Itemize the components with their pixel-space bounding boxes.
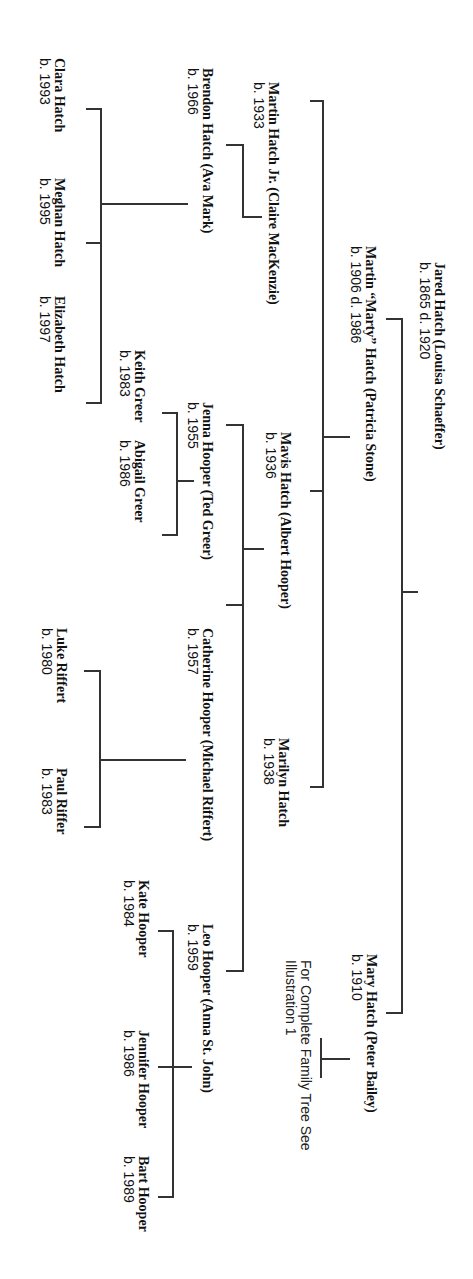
connector-brendon-tick xyxy=(226,144,244,146)
person-dates: b. 1966 xyxy=(186,68,200,234)
connector-martin-sr-tick xyxy=(386,318,402,320)
person-dates: b. 1984 xyxy=(122,880,136,957)
connector-mary-tick xyxy=(386,1012,402,1014)
person-dates: b. 1983 xyxy=(40,768,54,834)
person-name: Clara Hatch xyxy=(52,58,67,132)
connector-gen3-spine xyxy=(322,100,324,788)
connector-jared-stub xyxy=(402,591,418,593)
connector-gen2-spine xyxy=(401,318,403,1014)
person-dates: b. 1983 xyxy=(118,350,132,422)
person-name: Mary Hatch (Peter Bailey) xyxy=(364,954,379,1113)
person-name: Mavis Hatch (Albert Hooper) xyxy=(278,432,293,609)
connector-brendon-elbow xyxy=(242,144,244,218)
person-brendon-hatch: Brendon Hatch (Ava Mark) b. 1966 xyxy=(186,68,215,234)
person-keith-greer: Keith Greer b. 1983 xyxy=(118,350,147,422)
person-martin-marty-hatch: Martin “Marty” Hatch (Patricia Stone) b.… xyxy=(349,246,378,482)
connector-mavis-stub xyxy=(244,548,264,550)
person-jared-hatch: Jared Hatch (Louisa Schaeffer) b. 1865 d… xyxy=(418,262,447,450)
person-name: Jared Hatch (Louisa Schaeffer) xyxy=(432,262,447,450)
person-dates: b. 1910 xyxy=(350,954,364,1113)
person-dates: b. 1986 xyxy=(118,440,132,523)
person-catherine-hooper: Catherine Hooper (Michael Riffert) b. 19… xyxy=(186,628,215,841)
person-name: Jenna Hooper (Ted Greer) xyxy=(200,402,215,560)
connector-keith-tick xyxy=(162,412,178,414)
connector-abigail-tick xyxy=(162,534,178,536)
person-meghan-hatch: Meghan Hatch b. 1995 xyxy=(38,178,67,267)
person-abigail-greer: Abigail Greer b. 1986 xyxy=(118,440,147,523)
connector-clara-tick xyxy=(86,108,102,110)
connector-martin-jr-stub xyxy=(242,216,262,218)
person-name: Paul Riffer xyxy=(54,768,69,834)
note-line-1: For Complete Family Tree See xyxy=(298,960,313,1151)
person-name: Kate Hooper xyxy=(136,880,151,957)
person-dates: b. 1906 d. 1986 xyxy=(349,246,363,482)
person-bart-hooper: Bart Hooper b. 1989 xyxy=(122,1156,151,1232)
person-dates: b. 1986 xyxy=(122,1030,136,1128)
person-name: Brendon Hatch (Ava Mark) xyxy=(200,68,215,234)
connector-gen5-leo-hooper-spine xyxy=(172,930,174,1198)
connector-luke-tick xyxy=(84,670,100,672)
connector-marilyn-tick xyxy=(310,786,324,788)
person-dates: b. 1957 xyxy=(186,628,200,841)
person-name: Marilyn Hatch xyxy=(276,738,291,827)
person-dates: b. 1995 xyxy=(38,178,52,267)
person-dates: b. 1936 xyxy=(264,432,278,609)
connector-jennifer-tick xyxy=(158,1066,174,1068)
person-name: Luke Riffert xyxy=(54,628,69,703)
person-dates: b. 1993 xyxy=(38,58,52,132)
person-martin-hatch-jr: Martin Hatch Jr. (Claire MacKenzie) b. 1… xyxy=(252,82,281,305)
person-name: Keith Greer xyxy=(132,350,147,422)
person-dates: b. 1980 xyxy=(40,628,54,703)
connector-martin-jr-tick xyxy=(310,100,324,102)
connector-catherine-tick xyxy=(226,604,244,606)
person-elizabeth-hatch: Elizabeth Hatch b. 1997 xyxy=(38,296,67,393)
person-mary-hatch: Mary Hatch (Peter Bailey) b. 1910 xyxy=(350,954,379,1113)
connector-mary-note-stub xyxy=(320,1058,350,1060)
person-dates: b. 1989 xyxy=(122,1156,136,1232)
person-dates: b. 1997 xyxy=(38,296,52,393)
complete-tree-note: For Complete Family Tree See Illustratio… xyxy=(283,960,313,1151)
connector-catherine-stub xyxy=(100,759,186,761)
connector-gen4-hooper-spine xyxy=(242,424,244,972)
person-dates: b. 1933 xyxy=(252,82,266,305)
person-name: Abigail Greer xyxy=(132,440,147,523)
connector-elizabeth-tick xyxy=(86,402,102,404)
family-tree-diagram: Jared Hatch (Louisa Schaeffer) b. 1865 d… xyxy=(0,0,473,1279)
connector-brendon-stub xyxy=(102,203,188,205)
person-mavis-hatch: Mavis Hatch (Albert Hooper) b. 1936 xyxy=(264,432,293,609)
connector-jenna-tick xyxy=(226,424,244,426)
connector-leo-tick xyxy=(226,970,244,972)
person-name: Martin Hatch Jr. (Claire MacKenzie) xyxy=(266,82,281,305)
connector-kate-tick xyxy=(158,930,174,932)
person-dates: b. 1938 xyxy=(262,738,276,827)
connector-mavis-tick xyxy=(310,490,324,492)
person-dates: b. 1865 d. 1920 xyxy=(418,262,432,450)
person-name: Leo Hooper (Anna St. John) xyxy=(200,924,215,1093)
connector-martin-sr-stub xyxy=(322,436,350,438)
person-marilyn-hatch: Marilyn Hatch b. 1938 xyxy=(262,738,291,827)
person-kate-hooper: Kate Hooper b. 1984 xyxy=(122,880,151,957)
person-luke-riffert: Luke Riffert b. 1980 xyxy=(40,628,69,703)
person-name: Catherine Hooper (Michael Riffert) xyxy=(200,628,215,841)
connector-gen5-greer-spine xyxy=(176,412,178,536)
connector-gen5-hatch-spine xyxy=(100,108,102,404)
person-clara-hatch: Clara Hatch b. 1993 xyxy=(38,58,67,132)
connector-bart-tick xyxy=(158,1196,174,1198)
connector-leo-stub xyxy=(172,1066,192,1068)
person-jennifer-hooper: Jennifer Hooper b. 1986 xyxy=(122,1030,151,1128)
person-name: Meghan Hatch xyxy=(52,178,67,267)
note-line-2: Illustration 1 xyxy=(283,960,298,1151)
person-name: Martin “Marty” Hatch (Patricia Stone) xyxy=(363,246,378,482)
person-name: Bart Hooper xyxy=(136,1156,151,1232)
connector-gen5-riffert-spine xyxy=(99,670,101,828)
person-name: Jennifer Hooper xyxy=(136,1030,151,1128)
person-paul-riffer: Paul Riffer b. 1983 xyxy=(40,768,69,834)
connector-paul-tick xyxy=(84,826,100,828)
person-name: Elizabeth Hatch xyxy=(52,296,67,393)
connector-jenna-stub xyxy=(176,480,194,482)
connector-meghan-tick xyxy=(86,242,102,244)
